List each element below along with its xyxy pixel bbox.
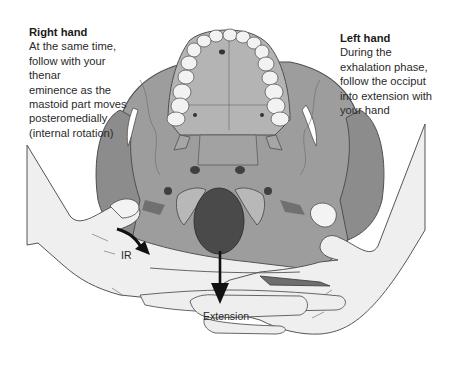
right-hand-title: Right hand <box>29 25 139 39</box>
left-hand-title: Left hand <box>340 31 450 45</box>
left-hand-annotation: Left hand During the exhalation phase, f… <box>340 31 450 117</box>
left-hand-description: During the exhalation phase, follow the … <box>340 45 450 117</box>
extension-label: Extension <box>203 310 249 322</box>
illustration-stage: Right hand At the same time, follow with… <box>0 0 452 367</box>
internal-rotation-label: IR <box>121 249 132 261</box>
right-hand-description: At the same time, follow with your thena… <box>29 39 139 140</box>
foramen-magnum <box>194 188 244 254</box>
right-hand-annotation: Right hand At the same time, follow with… <box>29 25 139 140</box>
